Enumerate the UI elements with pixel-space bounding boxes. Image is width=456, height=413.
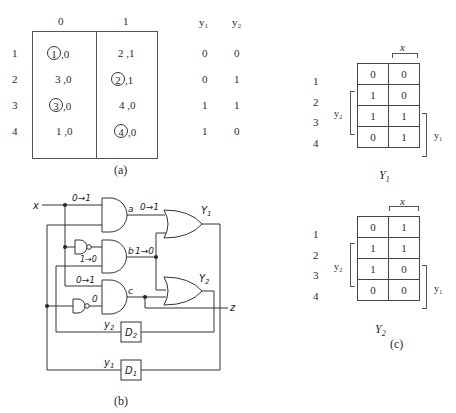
kmap-title-y1: Y1 — [379, 168, 390, 184]
y2-bracket — [350, 91, 355, 135]
gate-label-b: b — [128, 246, 134, 256]
gate-label-c: c — [128, 286, 133, 296]
kmap-grid: 00 10 11 01 — [357, 63, 420, 148]
kmap-grid: 01 11 10 00 — [357, 216, 420, 301]
nand-gate-2 — [73, 299, 85, 313]
logic-circuit: x 0→1 a 0→1 1→0 b 1→0 0→1 0 c Y1 Y2 z D2… — [0, 0, 300, 413]
output-z-label: z — [229, 302, 236, 313]
kmap-row-var-right: y₁ — [434, 283, 443, 294]
kmap-row-label: 2 — [313, 249, 319, 261]
kmap-row-var-left: y₂ — [334, 261, 343, 272]
y1-bracket — [422, 113, 427, 157]
kmap-row-label: 1 — [313, 228, 319, 240]
kmap-row-label: 3 — [313, 116, 319, 128]
kmap-row-var-left: y₂ — [334, 108, 343, 119]
kmap-row-label: 4 — [313, 137, 319, 149]
kmap-row-label: 4 — [313, 290, 319, 302]
or-gate-y2 — [164, 277, 202, 305]
x-bracket — [389, 206, 419, 211]
y1-bracket — [422, 265, 427, 309]
state-var-y1: y1 — [103, 357, 114, 370]
kmap-col-var: x — [400, 42, 405, 53]
y2-bracket — [350, 243, 355, 287]
or-gate-y1 — [164, 210, 202, 238]
output-label-Y1: Y1 — [201, 205, 212, 218]
kmap-row-label: 3 — [313, 269, 319, 281]
inverter-bubble — [85, 304, 90, 309]
transition-x: 0→1 — [72, 193, 91, 203]
transition-a: 0→1 — [140, 202, 159, 212]
transition-inv: 1→0 — [80, 255, 97, 264]
inverter-bubble — [87, 245, 92, 250]
and-gate-a — [102, 198, 127, 232]
caption-b: (b) — [114, 394, 128, 409]
input-x-label: x — [32, 200, 39, 211]
gate-label-a: a — [128, 204, 134, 214]
kmap-row-label: 2 — [313, 96, 319, 108]
transition-b: 1→0 — [135, 246, 154, 256]
output-label-Y2: Y2 — [199, 273, 210, 286]
nand-gate-1 — [75, 240, 87, 254]
and-gate-c — [102, 280, 127, 314]
state-var-y2: y2 — [103, 319, 115, 332]
and-gate-b — [102, 240, 127, 273]
x-bracket — [392, 53, 418, 58]
caption-c: (c) — [390, 337, 403, 352]
kmap-title-y2: Y2 — [375, 322, 386, 338]
kmap-row-var-right: y₁ — [434, 130, 443, 141]
kmap-row-label: 1 — [313, 75, 319, 87]
transition-c-in: 0→1 — [76, 275, 95, 285]
transition-inv2: 0 — [92, 294, 98, 304]
